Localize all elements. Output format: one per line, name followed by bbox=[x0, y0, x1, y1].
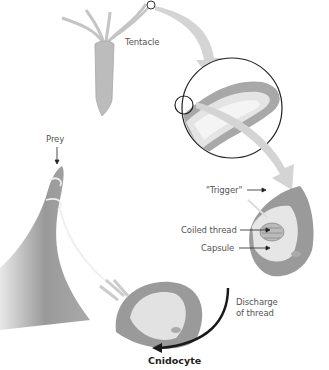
label-discharge-2: of thread bbox=[236, 308, 274, 318]
diagram-title: Cnidocyte bbox=[148, 355, 201, 366]
label-tentacle: Tentacle bbox=[125, 37, 159, 47]
diagram-artwork bbox=[0, 0, 329, 370]
hydra-icon bbox=[62, 4, 148, 116]
magnify-circle-small bbox=[147, 1, 155, 9]
cnidocyte-discharged bbox=[100, 280, 202, 348]
label-prey: Prey bbox=[46, 134, 64, 144]
label-coiled-thread: Coiled thread bbox=[181, 225, 237, 235]
label-capsule: Capsule bbox=[201, 243, 234, 253]
label-discharge-1: Discharge bbox=[236, 297, 278, 307]
label-trigger: "Trigger" bbox=[206, 185, 242, 195]
cnidocyte-undischarged bbox=[248, 186, 314, 276]
